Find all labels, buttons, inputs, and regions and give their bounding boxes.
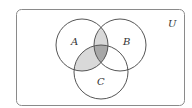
label-c: C xyxy=(97,76,105,87)
label-a: A xyxy=(70,36,78,47)
label-universe: U xyxy=(168,18,177,29)
label-b: B xyxy=(122,36,130,47)
venn-diagram: A B C U xyxy=(0,0,192,108)
